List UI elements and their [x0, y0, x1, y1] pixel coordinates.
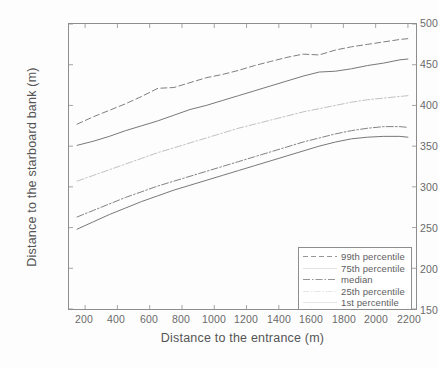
x-tick-label: 400 [107, 313, 125, 325]
legend-label: 1st percentile [341, 297, 399, 308]
x-tick-label: 600 [140, 313, 158, 325]
figure-container: 500 450 400 350 300 250 200 150 200 400 … [0, 0, 438, 368]
legend: 99th percentile 75th percentile median 2… [298, 247, 412, 310]
x-tick-label: 2200 [397, 313, 421, 325]
series-line-1st-percentile [77, 136, 408, 229]
legend-item[interactable]: 99th percentile [299, 251, 411, 263]
data-series-group [77, 39, 408, 230]
x-tick-label: 1800 [332, 313, 356, 325]
legend-line-sample-25th [302, 287, 338, 296]
series-line-75th-percentile [77, 59, 408, 145]
legend-label: median [341, 274, 373, 285]
x-tick-label: 1600 [299, 313, 323, 325]
legend-line-sample-median [302, 275, 338, 284]
legend-line-sample-75th [302, 264, 338, 273]
legend-item[interactable]: 25th percentile [299, 286, 411, 298]
x-tick-label: 200 [75, 313, 93, 325]
legend-item[interactable]: 1st percentile [299, 297, 411, 309]
legend-line-sample-1st [302, 298, 338, 307]
x-tick-label: 1000 [202, 313, 226, 325]
legend-item[interactable]: median [299, 274, 411, 286]
x-tick-label: 1400 [267, 313, 291, 325]
legend-item[interactable]: 75th percentile [299, 263, 411, 275]
x-tick-label: 1200 [234, 313, 258, 325]
legend-label: 99th percentile [341, 251, 405, 262]
legend-label: 25th percentile [341, 286, 405, 297]
y-axis-title: Distance to the starboard bank (m) [25, 17, 39, 317]
x-tick-label: 800 [172, 313, 190, 325]
legend-line-sample-99th [302, 252, 338, 261]
legend-label: 75th percentile [341, 263, 405, 274]
x-axis-title: Distance to the entrance (m) [68, 331, 417, 345]
x-tick-label: 2000 [364, 313, 388, 325]
series-line-25th-percentile [77, 127, 408, 217]
series-line-99th-percentile [77, 39, 408, 125]
